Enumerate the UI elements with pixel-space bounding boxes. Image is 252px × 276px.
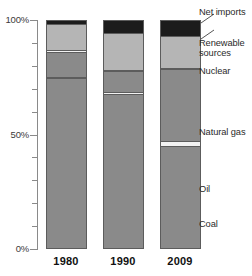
bar-segment-natural-gas-1990 [104, 71, 143, 91]
x-axis-label-1990: 1990 [93, 255, 153, 267]
bar-segment-net-imports-2009 [161, 21, 200, 36]
y-tick-100 [30, 20, 38, 21]
y-tick-10 [32, 226, 38, 227]
y-tick-60 [32, 112, 38, 113]
stacked-bar-chart: 100% 50% 0% 1980 1990 2009 Net imports R… [0, 0, 252, 276]
bar-segment-coal-1980 [47, 78, 86, 248]
y-axis-label-100: 100% [0, 15, 29, 25]
y-tick-20 [32, 203, 38, 204]
x-axis-label-1980: 1980 [36, 255, 96, 267]
callout-coal: Coal [199, 219, 218, 230]
bar-segment-net-imports-1990 [104, 21, 143, 33]
y-tick-50 [30, 135, 38, 136]
bar-1980[interactable] [46, 20, 87, 249]
callout-oil: Oil [199, 184, 210, 195]
callout-renewable-sources-line2: sources [199, 48, 231, 59]
callout-renewable-sources-line1: Renewable [199, 38, 245, 49]
bar-segment-natural-gas-2009 [161, 69, 200, 142]
bar-2009[interactable] [160, 20, 201, 249]
y-tick-0 [30, 249, 38, 250]
callout-nuclear: Nuclear [199, 66, 230, 77]
y-tick-90 [32, 43, 38, 44]
y-tick-80 [32, 66, 38, 67]
bar-segment-natural-gas-1980 [47, 52, 86, 77]
y-axis-label-0: 0% [0, 244, 29, 254]
y-tick-30 [32, 180, 38, 181]
y-tick-70 [32, 89, 38, 90]
bar-segment-renewable-sources-1980 [47, 24, 86, 50]
y-axis-label-50: 50% [0, 130, 29, 140]
bar-segment-renewable-sources-1990 [104, 33, 143, 70]
bar-segment-coal-1990 [104, 94, 143, 248]
callout-net-imports: Net imports [199, 7, 245, 18]
bar-1990[interactable] [103, 20, 144, 249]
bar-segment-renewable-sources-2009 [161, 36, 200, 68]
bar-segment-coal-2009 [161, 146, 200, 248]
callout-natural-gas: Natural gas [199, 127, 245, 138]
x-axis-label-2009: 2009 [150, 255, 210, 267]
y-tick-40 [32, 157, 38, 158]
